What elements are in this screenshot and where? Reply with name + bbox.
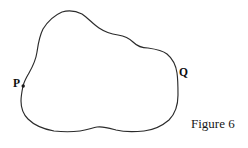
closed-curve-outline	[21, 11, 178, 132]
point-q-label: Q	[179, 67, 188, 79]
point-p-label: P	[13, 78, 20, 90]
figure-caption: Figure 6	[191, 117, 235, 130]
figure-container: P Q Figure 6	[0, 0, 248, 148]
point-p-marker	[22, 84, 25, 87]
